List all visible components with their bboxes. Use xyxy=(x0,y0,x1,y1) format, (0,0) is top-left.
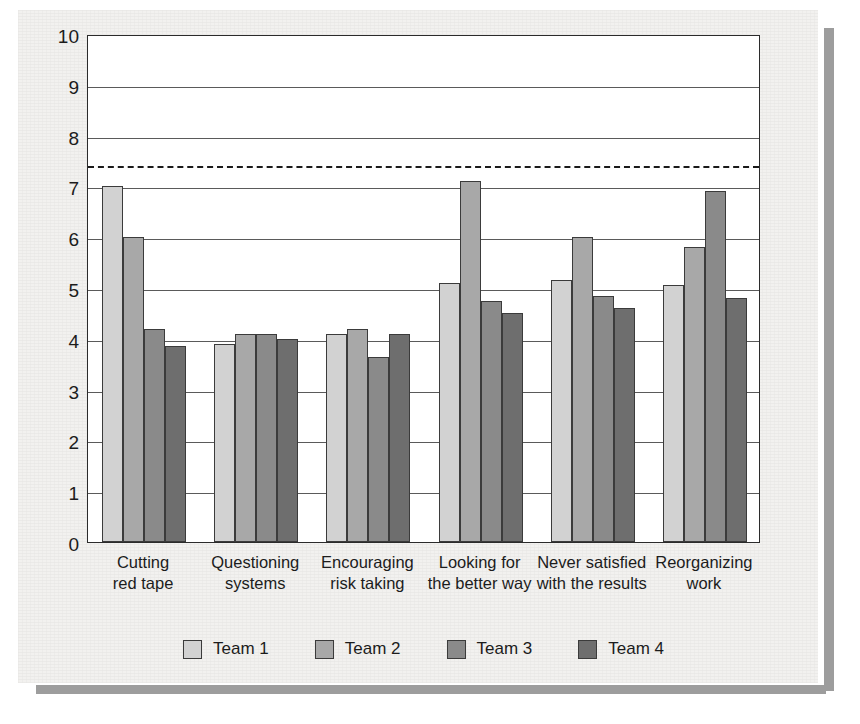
legend-item[interactable]: Team 1 xyxy=(183,639,269,659)
bar xyxy=(663,285,684,542)
bar xyxy=(144,329,165,542)
chart-legend: Team 1Team 2Team 3Team 4 xyxy=(87,632,760,666)
y-axis-tick-label: 5 xyxy=(68,281,79,300)
legend-label: Team 3 xyxy=(477,639,533,659)
legend-item[interactable]: Team 3 xyxy=(447,639,533,659)
x-axis-label-line: systems xyxy=(199,573,311,594)
x-axis-label-line: Never satisfied xyxy=(536,552,648,573)
bar xyxy=(684,247,705,542)
legend-swatch-icon xyxy=(183,640,202,659)
x-axis-label-line: the better way xyxy=(424,573,536,594)
y-axis-tick-label: 7 xyxy=(68,179,79,198)
y-axis-tick-label: 10 xyxy=(58,27,79,46)
bar xyxy=(277,339,298,542)
x-axis-label-line: work xyxy=(648,573,760,594)
x-axis-label-line: red tape xyxy=(87,573,199,594)
legend-swatch-icon xyxy=(578,640,597,659)
x-axis-label: Cuttingred tape xyxy=(87,552,199,594)
x-axis-label-line: with the results xyxy=(536,573,648,594)
panel-shadow-right xyxy=(824,28,834,691)
bar-group xyxy=(200,36,312,542)
bar xyxy=(389,334,410,542)
y-axis-tick-label: 2 xyxy=(68,433,79,452)
x-axis-label-line: Reorganizing xyxy=(648,552,760,573)
bar-group xyxy=(425,36,537,542)
legend-swatch-icon xyxy=(447,640,466,659)
bar-group xyxy=(649,36,761,542)
bar xyxy=(460,181,481,542)
bar xyxy=(165,346,186,542)
y-axis-tick-label: 0 xyxy=(68,535,79,554)
x-axis-label-line: Questioning xyxy=(199,552,311,573)
bar xyxy=(235,334,256,542)
bar-group xyxy=(312,36,424,542)
legend-label: Team 1 xyxy=(213,639,269,659)
x-axis-label-line: Cutting xyxy=(87,552,199,573)
bar xyxy=(123,237,144,542)
x-axis-label-line: Looking for xyxy=(424,552,536,573)
panel-shadow-bottom xyxy=(36,685,826,694)
bar xyxy=(502,313,523,542)
bar xyxy=(326,334,347,542)
bar-group xyxy=(537,36,649,542)
legend-item[interactable]: Team 4 xyxy=(578,639,664,659)
y-axis-tick-label: 8 xyxy=(68,128,79,147)
legend-swatch-icon xyxy=(315,640,334,659)
legend-label: Team 2 xyxy=(345,639,401,659)
bar xyxy=(368,357,389,542)
y-axis-tick-label: 9 xyxy=(68,77,79,96)
bars-layer xyxy=(88,36,759,542)
bar xyxy=(726,298,747,542)
bar xyxy=(214,344,235,542)
legend-item[interactable]: Team 2 xyxy=(315,639,401,659)
bar xyxy=(102,186,123,542)
x-axis-label-line: risk taking xyxy=(311,573,423,594)
bar xyxy=(256,334,277,542)
legend-label: Team 4 xyxy=(608,639,664,659)
x-axis-label: Looking forthe better way xyxy=(424,552,536,594)
y-axis-tick-label: 6 xyxy=(68,230,79,249)
x-axis-label: Questioningsystems xyxy=(199,552,311,594)
x-axis-labels: Cuttingred tapeQuestioningsystemsEncoura… xyxy=(87,552,760,612)
bar xyxy=(572,237,593,542)
y-axis-tick-label: 1 xyxy=(68,484,79,503)
y-axis-tick-label: 4 xyxy=(68,331,79,350)
bar xyxy=(439,283,460,542)
bar-group xyxy=(88,36,200,542)
bar xyxy=(551,280,572,542)
bar xyxy=(347,329,368,542)
x-axis-label: Never satisfiedwith the results xyxy=(536,552,648,594)
threshold-dashed-line xyxy=(88,166,759,168)
bar xyxy=(481,301,502,542)
x-axis-label-line: Encouraging xyxy=(311,552,423,573)
chart-figure: 012345678910 Cuttingred tapeQuestionings… xyxy=(0,0,860,724)
plot-area: 012345678910 xyxy=(87,35,760,543)
bar xyxy=(593,296,614,542)
bar xyxy=(705,191,726,542)
x-axis-label: Encouragingrisk taking xyxy=(311,552,423,594)
y-axis-tick-label: 3 xyxy=(68,382,79,401)
x-axis-label: Reorganizingwork xyxy=(648,552,760,594)
bar xyxy=(614,308,635,542)
